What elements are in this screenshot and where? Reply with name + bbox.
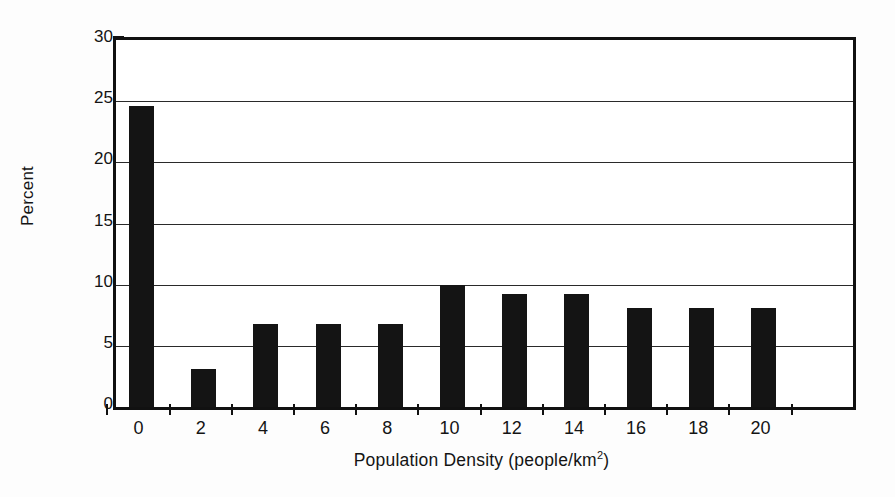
x-tick-label: 0 bbox=[109, 418, 169, 439]
gridline-y-25 bbox=[116, 101, 853, 102]
y-axis-ticks: 051015202530 bbox=[55, 37, 113, 404]
x-tick-mark bbox=[791, 404, 793, 415]
gridline-y-20 bbox=[116, 162, 853, 163]
bar bbox=[689, 308, 714, 407]
x-tick-mark bbox=[293, 404, 295, 415]
x-axis-ticks: 02468101214161820 bbox=[113, 404, 856, 416]
x-tick-mark bbox=[355, 404, 357, 415]
x-tick-mark bbox=[666, 404, 668, 415]
bar bbox=[440, 285, 465, 407]
bar bbox=[502, 294, 527, 407]
x-tick-label: 20 bbox=[731, 418, 791, 439]
x-tick-label: 12 bbox=[482, 418, 542, 439]
bar bbox=[378, 324, 403, 407]
gridline-y-15 bbox=[116, 224, 853, 225]
x-tick-mark bbox=[417, 404, 419, 415]
bar bbox=[129, 106, 154, 407]
x-tick-label: 8 bbox=[357, 418, 417, 439]
x-tick-mark bbox=[106, 404, 108, 415]
x-tick-mark bbox=[728, 404, 730, 415]
x-tick-label: 18 bbox=[668, 418, 728, 439]
x-tick-mark bbox=[542, 404, 544, 415]
x-tick-label: 4 bbox=[233, 418, 293, 439]
y-tick-label: 5 bbox=[71, 333, 113, 353]
x-tick-mark bbox=[480, 404, 482, 415]
x-tick-mark bbox=[231, 404, 233, 415]
x-axis-title-suffix: ) bbox=[603, 450, 609, 470]
bar bbox=[564, 294, 589, 407]
x-tick-label: 14 bbox=[544, 418, 604, 439]
x-tick-label: 6 bbox=[295, 418, 355, 439]
bar bbox=[751, 308, 776, 407]
x-tick-label: 16 bbox=[606, 418, 666, 439]
bar bbox=[253, 324, 278, 407]
plot-area bbox=[113, 37, 856, 410]
bar bbox=[191, 369, 216, 407]
y-tick-label: 25 bbox=[71, 88, 113, 108]
y-tick-label: 30 bbox=[71, 27, 113, 47]
plot-inner bbox=[116, 40, 853, 407]
x-tick-mark bbox=[169, 404, 171, 415]
x-tick-mark bbox=[604, 404, 606, 415]
y-tick-label: 15 bbox=[71, 211, 113, 231]
gridline-y-5 bbox=[116, 346, 853, 347]
y-tick-label: 20 bbox=[71, 149, 113, 169]
bar bbox=[627, 308, 652, 407]
x-tick-label: 2 bbox=[171, 418, 231, 439]
bar bbox=[316, 324, 341, 407]
x-tick-label: 10 bbox=[420, 418, 480, 439]
gridline-y-10 bbox=[116, 285, 853, 286]
x-axis-title-text: Population Density (people/km bbox=[354, 450, 597, 470]
chart-figure: Percent 051015202530 02468101214161820 P… bbox=[0, 0, 895, 497]
y-tick-label: 10 bbox=[71, 272, 113, 292]
x-axis-title: Population Density (people/km2) bbox=[113, 449, 850, 471]
y-axis-title: Percent bbox=[18, 146, 38, 246]
